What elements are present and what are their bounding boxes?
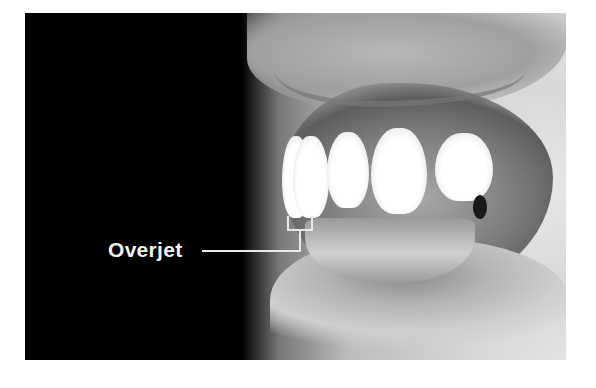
upper-premolar	[435, 133, 493, 201]
leader-line	[202, 250, 301, 252]
bracket-right-tick	[311, 216, 313, 231]
bracket-bar	[287, 229, 313, 231]
dark-gap	[473, 195, 487, 219]
upper-canine	[371, 128, 427, 214]
bracket-stem	[299, 229, 301, 252]
overjet-label: Overjet	[108, 238, 182, 262]
upper-lateral-incisor	[327, 132, 369, 208]
dental-photo	[25, 13, 566, 360]
bracket-left-tick	[287, 216, 289, 231]
upper-incisor-central	[293, 136, 329, 218]
